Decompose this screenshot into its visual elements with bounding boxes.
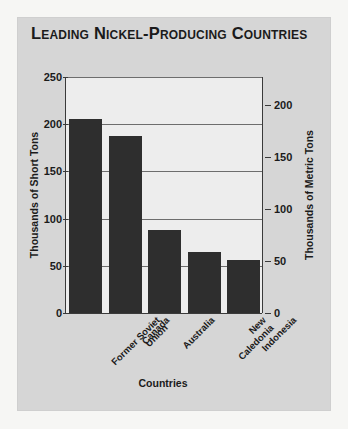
bar	[69, 119, 102, 313]
y-tick-right-50: 50	[263, 255, 286, 267]
y-axis-left-title: Thousands of Short Tons	[27, 77, 41, 313]
y-tick-left-0: 0	[56, 307, 62, 319]
y-tick-left-200: 200	[44, 118, 62, 130]
y-tick-right-200: 200	[263, 99, 292, 111]
y-axis-right-title-text: Thousands of Metric Tons	[303, 130, 315, 260]
x-axis-category-labels: Former Soviet UnionCanadaAustraliaNew Ca…	[65, 315, 261, 377]
bar	[148, 230, 181, 313]
y-tick-right-150: 150	[263, 151, 292, 163]
y-axis-left-title-text: Thousands of Short Tons	[28, 132, 40, 258]
y-tick-left-50: 50	[50, 260, 62, 272]
chart-title: Leading Nickel-Producing Countries	[31, 24, 317, 43]
y-axis-right-line: 050100150200	[262, 77, 263, 313]
bar	[188, 252, 221, 313]
y-tick-right-100: 100	[263, 203, 292, 215]
y-tick-left-150: 150	[44, 165, 62, 177]
y-tick-left-250: 250	[44, 71, 62, 83]
x-category-label: Australia	[181, 315, 217, 351]
y-axis-right-title: Thousands of Metric Tons	[302, 77, 316, 313]
page-background: Leading Nickel-Producing Countries Thous…	[0, 0, 348, 429]
bar	[227, 260, 260, 313]
x-axis-title: Countries	[65, 377, 261, 389]
chart-card: Leading Nickel-Producing Countries Thous…	[18, 18, 330, 410]
bar-series	[66, 77, 262, 313]
y-tick-left-100: 100	[44, 213, 62, 225]
bar	[109, 136, 142, 313]
y-tick-right-0: 0	[263, 307, 280, 319]
plot-area: 050100150200250 050100150200	[65, 77, 262, 314]
